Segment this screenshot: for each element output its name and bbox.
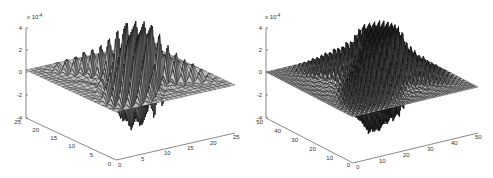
- x-tick-label: 0: [356, 164, 360, 170]
- z-axis-right: 4 2 0 -2 -4 x 10-4: [257, 13, 281, 122]
- y-tick-label: 10: [68, 143, 75, 149]
- z-tick-label: 4: [259, 25, 263, 31]
- x-axis-right: 0 10 20 30 40 50: [353, 133, 482, 170]
- y-axis-left: 25 20 15 10 5 0: [14, 118, 116, 167]
- x-axis-left: 0 5 10 15 20 25: [116, 133, 240, 168]
- y-tick-label: 15: [50, 135, 57, 141]
- y-axis-right: 50 40 30 20 10 0: [256, 118, 353, 168]
- z-multiplier-label: x 10-4: [27, 13, 43, 21]
- x-tick-label: 25: [233, 134, 240, 140]
- x-tick-label: 40: [451, 140, 458, 146]
- y-tick-label: 5: [90, 152, 94, 158]
- x-tick-label: 15: [187, 145, 194, 151]
- z-tick-label: 2: [19, 47, 23, 53]
- surface-plot-left: 4 2 0 -2 -4 x 10-4 25 20 15 10 5 0 0 5 1…: [14, 13, 240, 169]
- z-axis-left: 4 2 0 -2 -4 x 10-4: [17, 13, 43, 122]
- x-tick-label: 30: [427, 146, 434, 152]
- y-tick-label: 0: [347, 162, 351, 168]
- z-tick-label: 0: [259, 69, 263, 75]
- z-tick-label: 0: [19, 69, 23, 75]
- x-tick-label: 50: [475, 134, 482, 140]
- x-tick-label: 20: [210, 140, 217, 146]
- figure-canvas: 4 2 0 -2 -4 x 10-4 25 20 15 10 5 0 0 5 1…: [0, 0, 493, 178]
- y-tick-label: 50: [256, 119, 263, 125]
- z-tick-label: 4: [19, 25, 23, 31]
- y-tick-label: 25: [14, 119, 21, 125]
- x-tick-label: 0: [118, 162, 122, 168]
- x-tick-label: 20: [403, 152, 410, 158]
- z-multiplier-label: x 10-4: [265, 13, 281, 21]
- x-tick-label: 10: [379, 158, 386, 164]
- y-tick-label: 10: [326, 155, 333, 161]
- y-tick-label: 40: [274, 128, 281, 134]
- surface-mesh-right: [266, 21, 478, 134]
- surface-plot-right: 4 2 0 -2 -4 x 10-4 50 40 30 20 10 0 0 10…: [256, 13, 482, 171]
- y-tick-label: 30: [291, 137, 298, 143]
- x-tick-label: 5: [141, 156, 145, 162]
- y-tick-label: 20: [309, 146, 316, 152]
- z-tick-label: -2: [17, 92, 23, 98]
- y-tick-label: 0: [108, 161, 112, 167]
- y-tick-label: 20: [32, 127, 39, 133]
- surface-mesh-left: [26, 21, 235, 130]
- z-tick-label: 2: [259, 47, 263, 53]
- z-tick-label: -2: [257, 92, 263, 98]
- x-tick-label: 10: [164, 150, 171, 156]
